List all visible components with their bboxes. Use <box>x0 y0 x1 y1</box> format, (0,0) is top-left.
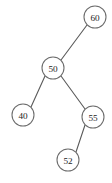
tree-node-55: 55 <box>82 106 104 128</box>
tree-canvas: 6050405552 <box>0 0 112 183</box>
tree-nodes-group: 6050405552 <box>12 6 106 171</box>
tree-edge-n55-to-n52 <box>76 125 85 152</box>
tree-node-label-55: 55 <box>89 113 98 123</box>
binary-tree-figure: 6050405552 <box>0 0 112 183</box>
tree-edge-n50-to-n40 <box>31 76 45 107</box>
tree-edge-n60-to-n50 <box>61 25 87 60</box>
tree-node-label-50: 50 <box>49 64 58 74</box>
tree-edges-group <box>31 25 87 152</box>
tree-node-40: 40 <box>12 104 34 126</box>
tree-node-52: 52 <box>57 149 79 171</box>
tree-node-label-40: 40 <box>19 111 28 121</box>
tree-node-label-60: 60 <box>91 13 100 23</box>
tree-edge-n50-to-n55 <box>61 76 85 109</box>
tree-node-60: 60 <box>84 6 106 28</box>
tree-node-label-52: 52 <box>64 156 73 166</box>
tree-node-50: 50 <box>42 57 64 79</box>
